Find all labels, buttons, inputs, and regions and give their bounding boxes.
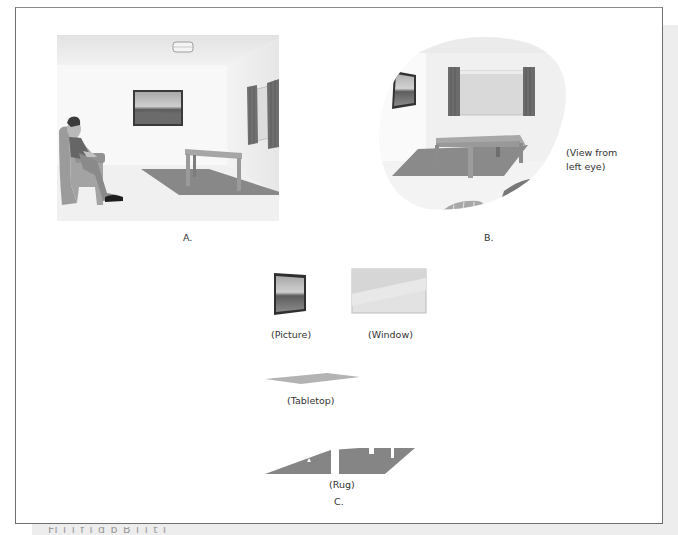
rug-piece [265,448,415,476]
page-shadow-right [662,25,678,535]
tabletop-label: (Tabletop) [287,395,335,406]
window-label: (Window) [368,329,413,340]
panel-b-annotation-line-1: (View from [566,147,617,158]
rug-label: (Rug) [329,479,355,490]
picture-label: (Picture) [271,329,311,340]
panel-b-annotation-line-2: left eye) [566,161,605,172]
panel-a-label: A. [183,232,192,243]
figure-caption-cutoff: Fi i l f i d b B i l t i [48,527,308,535]
caption-text: Fi i l f i d b B i l t i [48,527,167,535]
panel-c-label: C. [334,496,344,507]
window-piece [351,268,427,314]
tabletop-piece [265,373,360,385]
picture-piece [272,271,308,317]
panel-a-room-illustration [57,35,279,221]
panel-b-label: B. [484,232,494,243]
panel-b-left-eye-view [378,31,568,217]
